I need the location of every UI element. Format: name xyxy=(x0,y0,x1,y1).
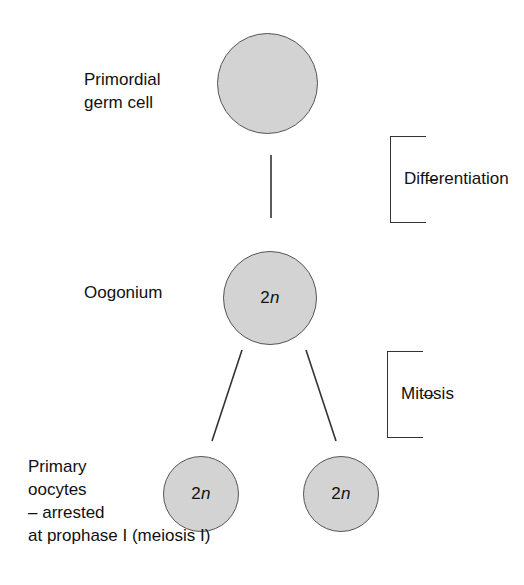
bracket-spine xyxy=(390,136,391,223)
ploidy-label: 2n xyxy=(331,484,350,504)
cell-primordial-germ-cell xyxy=(217,33,318,134)
connector-oogonium-to-right-oocyte xyxy=(306,350,336,441)
stage-label-primary-oocytes: Primary oocytes – arrested at prophase I… xyxy=(28,455,210,547)
cell-oogonium: 2n xyxy=(223,251,317,345)
bracket-arm-bottom xyxy=(387,437,423,438)
bracket-arm-top xyxy=(387,351,423,352)
cell-primary-oocyte-right: 2n xyxy=(303,456,379,532)
connector-oogonium-to-left-oocyte xyxy=(212,350,242,441)
oogenesis-diagram: 2n 2n 2n Primordial germ cell Oogonium P… xyxy=(0,0,524,585)
bracket-arm-bottom xyxy=(390,222,426,223)
bracket-arm-top xyxy=(390,136,426,137)
stage-label-oogonium: Oogonium xyxy=(84,281,162,304)
process-label-differentiation: Differentiation xyxy=(404,169,509,189)
bracket-spine xyxy=(387,351,388,438)
ploidy-label: 2n xyxy=(260,288,279,308)
stage-label-primordial-germ-cell: Primordial germ cell xyxy=(84,68,161,114)
process-label-mitosis: Mitosis xyxy=(401,384,454,404)
